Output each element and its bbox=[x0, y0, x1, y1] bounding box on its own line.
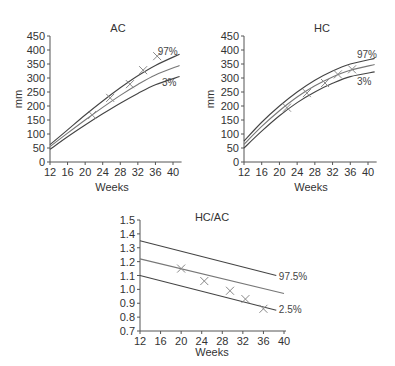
percentile-label: 2.5% bbox=[279, 304, 302, 315]
figure-canvas: AC Weeks mm 0501001502002503003504004501… bbox=[0, 0, 395, 366]
chart-title-hc-ac: HC/AC bbox=[195, 211, 229, 223]
x-tick-label: 12 bbox=[134, 335, 146, 347]
y-tick-label: 300 bbox=[27, 72, 45, 84]
percentile-curve-97pct bbox=[244, 58, 375, 141]
percentile-label: 3% bbox=[162, 77, 177, 88]
x-tick-label: 28 bbox=[216, 335, 228, 347]
x-tick-label: 36 bbox=[344, 166, 356, 178]
y-tick-label: 100 bbox=[221, 128, 239, 140]
x-tick-label: 20 bbox=[175, 335, 187, 347]
y-tick-label: 1.2 bbox=[120, 256, 135, 268]
x-tick-label: 16 bbox=[154, 335, 166, 347]
y-tick-label: 300 bbox=[221, 72, 239, 84]
y-tick-label: 100 bbox=[27, 128, 45, 140]
plot-area-hc-ac: 0.70.80.91.01.11.21.31.41.51216202428323… bbox=[120, 214, 308, 347]
x-tick-label: 32 bbox=[237, 335, 249, 347]
y-tick-label: 450 bbox=[221, 30, 239, 42]
measurement-marker bbox=[334, 70, 342, 78]
y-tick-label: 150 bbox=[221, 114, 239, 126]
y-tick-label: 50 bbox=[227, 142, 239, 154]
chart-hc-ac-ratio: HC/AC Weeks 0.70.80.91.01.11.21.31.41.51… bbox=[120, 211, 308, 358]
x-tick-label: 16 bbox=[256, 166, 268, 178]
x-tick-label: 28 bbox=[114, 166, 126, 178]
y-tick-label: 450 bbox=[27, 30, 45, 42]
y-tick-label: 1.0 bbox=[120, 283, 135, 295]
x-tick-label: 24 bbox=[291, 166, 303, 178]
x-tick-label: 24 bbox=[196, 335, 208, 347]
x-tick-label: 32 bbox=[132, 166, 144, 178]
y-tick-label: 0.9 bbox=[120, 297, 135, 309]
y-tick-label: 0.7 bbox=[120, 325, 135, 337]
x-tick-label: 16 bbox=[61, 166, 73, 178]
measurement-marker bbox=[88, 111, 96, 119]
measurement-marker bbox=[259, 305, 267, 313]
percentile-curve-3pct bbox=[50, 77, 180, 150]
y-tick-label: 1.4 bbox=[120, 228, 135, 240]
x-axis-label-hc-ac: Weeks bbox=[195, 346, 229, 358]
plot-area-ac: 0501001502002503003504004501216202428323… bbox=[27, 30, 182, 178]
percentile-label: 97% bbox=[357, 49, 377, 60]
x-tick-label: 12 bbox=[238, 166, 250, 178]
x-tick-label: 20 bbox=[273, 166, 285, 178]
percentile-label: 3% bbox=[357, 76, 372, 87]
x-tick-label: 40 bbox=[167, 166, 179, 178]
x-tick-label: 20 bbox=[79, 166, 91, 178]
measurement-marker bbox=[200, 277, 208, 285]
chart-hc: HC Weeks mm 0501001502002503003504004501… bbox=[204, 22, 377, 193]
y-tick-label: 200 bbox=[221, 100, 239, 112]
y-tick-label: 350 bbox=[27, 58, 45, 70]
x-tick-label: 40 bbox=[278, 335, 290, 347]
percentile-curve-97-5pct bbox=[140, 241, 276, 276]
x-tick-label: 24 bbox=[97, 166, 109, 178]
percentile-label: 97% bbox=[158, 46, 178, 57]
y-tick-label: 250 bbox=[221, 86, 239, 98]
x-axis-label-hc: Weeks bbox=[294, 181, 328, 193]
x-tick-label: 12 bbox=[44, 166, 56, 178]
x-tick-label: 36 bbox=[149, 166, 161, 178]
percentile-curve-50pct bbox=[244, 65, 375, 145]
x-tick-label: 28 bbox=[309, 166, 321, 178]
y-tick-label: 250 bbox=[27, 86, 45, 98]
y-tick-label: 400 bbox=[27, 44, 45, 56]
plot-area-hc: 0501001502002503003504004501216202428323… bbox=[221, 30, 377, 178]
y-tick-label: 1.3 bbox=[120, 242, 135, 254]
y-tick-label: 0.8 bbox=[120, 311, 135, 323]
y-tick-label: 400 bbox=[221, 44, 239, 56]
y-tick-label: 1.1 bbox=[120, 270, 135, 282]
x-tick-label: 40 bbox=[362, 166, 374, 178]
y-axis-label-hc: mm bbox=[204, 90, 216, 108]
percentile-curve-50pct bbox=[140, 259, 284, 294]
y-tick-label: 50 bbox=[33, 142, 45, 154]
y-tick-label: 200 bbox=[27, 100, 45, 112]
x-axis-label-ac: Weeks bbox=[95, 181, 129, 193]
y-tick-label: 150 bbox=[27, 114, 45, 126]
chart-ac: AC Weeks mm 0501001502002503003504004501… bbox=[12, 22, 182, 193]
chart-title-hc: HC bbox=[314, 22, 330, 34]
x-tick-label: 36 bbox=[257, 335, 269, 347]
y-tick-label: 350 bbox=[221, 58, 239, 70]
chart-title-ac: AC bbox=[110, 22, 125, 34]
measurement-marker bbox=[226, 287, 234, 295]
percentile-label: 97.5% bbox=[279, 271, 307, 282]
y-axis-label-ac: mm bbox=[12, 90, 24, 108]
x-tick-label: 32 bbox=[326, 166, 338, 178]
percentile-curve-2-5pct bbox=[140, 276, 276, 311]
y-tick-label: 1.5 bbox=[120, 214, 135, 226]
